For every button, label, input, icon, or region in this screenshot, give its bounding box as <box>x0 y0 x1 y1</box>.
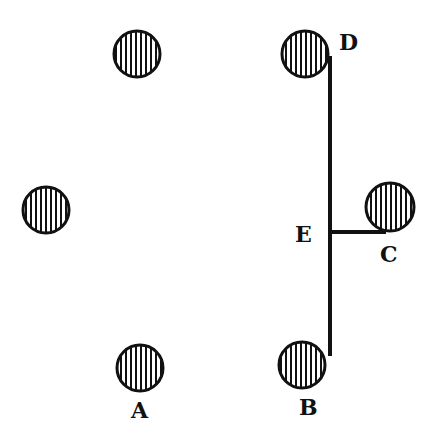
circle-left <box>23 187 69 233</box>
hatched-circles <box>23 31 414 391</box>
circle-B <box>279 342 325 388</box>
label-a: A <box>130 397 149 423</box>
label-d: D <box>339 29 358 55</box>
circle-A <box>117 345 163 391</box>
diagram-svg: D E C A B <box>0 0 433 440</box>
label-c: C <box>380 241 398 267</box>
labels: D E C A B <box>130 29 398 423</box>
label-b: B <box>299 394 318 420</box>
circle-C <box>366 183 414 231</box>
circle-D <box>282 31 328 77</box>
diagram-canvas: D E C A B <box>0 0 433 440</box>
circle-top-left <box>114 31 160 77</box>
label-e: E <box>295 221 312 247</box>
